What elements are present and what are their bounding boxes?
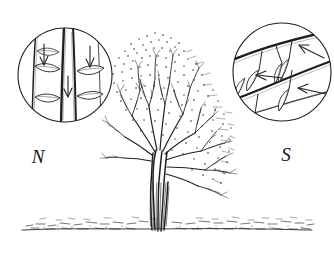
illustration-canvas: N S (0, 0, 334, 262)
botanical-illustration-figure: N S (0, 0, 334, 262)
north-label: N (31, 146, 46, 167)
south-label: S (281, 144, 291, 165)
